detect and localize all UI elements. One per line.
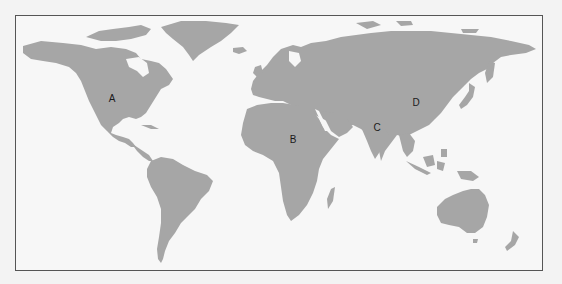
southeast-asia [399, 133, 415, 157]
central-america [131, 143, 153, 161]
new-guinea [457, 171, 479, 181]
arctic-islands [86, 25, 151, 41]
iceland [233, 47, 247, 54]
south-america [147, 157, 213, 263]
world-map: A B C D [15, 15, 543, 271]
north-america [23, 41, 173, 147]
world-map-land [16, 16, 542, 270]
marker-d: D [412, 98, 419, 108]
greenland [161, 21, 239, 61]
africa [241, 103, 339, 221]
marker-c: C [373, 123, 380, 133]
australia [437, 189, 489, 233]
marker-a: A [109, 94, 116, 104]
madagascar [327, 187, 335, 209]
caribbean [141, 125, 159, 129]
marker-b: B [290, 135, 297, 145]
new-zealand [505, 231, 519, 251]
